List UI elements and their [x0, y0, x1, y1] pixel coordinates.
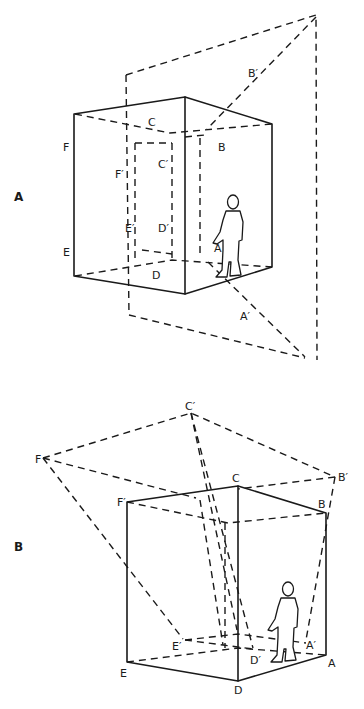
label-a-a-prime: A′ — [240, 310, 251, 323]
label-b-a: A — [328, 657, 336, 670]
label-b-e: E — [120, 667, 127, 680]
label-b-f: F — [35, 453, 41, 466]
label-a-e-prime: E′ — [125, 222, 135, 235]
label-a-d-prime: D′ — [158, 222, 169, 235]
label-a-b-prime: B′ — [248, 67, 259, 80]
label-b-a-prime: A′ — [306, 639, 317, 652]
label-b-e-prime: E′ — [172, 640, 182, 653]
cube-hidden-edges-a — [75, 114, 272, 276]
panel-label-a: A — [14, 190, 24, 204]
label-b-f-prime: F′ — [117, 496, 126, 509]
human-figure-a — [213, 195, 243, 277]
label-b-b-prime: B′ — [338, 471, 349, 484]
figure-b: B F — [14, 400, 349, 697]
label-a-c-prime: C′ — [158, 158, 169, 171]
projection-plane-a — [126, 15, 317, 360]
label-a-c: C — [148, 116, 156, 129]
label-a-f-prime: F′ — [115, 168, 124, 181]
panel-label-b: B — [14, 540, 23, 554]
label-b-b: B — [318, 498, 326, 511]
figure-a: A C — [14, 15, 317, 360]
human-figure-b — [268, 582, 298, 662]
label-a-e: E — [63, 246, 70, 259]
label-b-c: C — [232, 472, 240, 485]
label-b-c-prime: C′ — [185, 400, 196, 413]
label-b-d: D — [234, 684, 242, 697]
diagram-canvas: A C — [0, 0, 364, 709]
label-b-d-prime: D′ — [250, 654, 261, 667]
label-a-d: D — [152, 269, 160, 282]
label-a-f: F — [63, 141, 69, 154]
label-a-a: A — [214, 242, 222, 255]
label-a-b: B — [218, 141, 226, 154]
